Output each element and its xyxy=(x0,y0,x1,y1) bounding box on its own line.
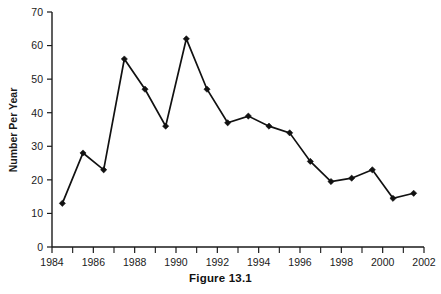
x-tick-label: 1990 xyxy=(164,256,188,268)
line-chart: Number Per Year 010203040506070 19841986… xyxy=(0,0,441,294)
x-tick-label: 1992 xyxy=(206,256,230,268)
y-axis-ticks: 010203040506070 xyxy=(31,6,52,253)
x-tick-label: 2000 xyxy=(371,256,395,268)
y-tick-label: 70 xyxy=(31,6,43,18)
x-tick-label: 1986 xyxy=(82,256,106,268)
x-tick-label: 1998 xyxy=(330,256,354,268)
y-tick-label: 60 xyxy=(31,39,43,51)
x-tick-label: 1994 xyxy=(247,256,271,268)
x-tick-label: 1988 xyxy=(123,256,147,268)
data-point xyxy=(59,200,65,206)
x-tick-label: 1984 xyxy=(40,256,64,268)
figure-caption: Figure 13.1 xyxy=(0,272,441,284)
figure-container: Number Per Year 010203040506070 19841986… xyxy=(0,0,441,294)
x-tick-label: 1996 xyxy=(288,256,312,268)
y-tick-label: 20 xyxy=(31,174,43,186)
data-series-line xyxy=(62,39,413,204)
data-point xyxy=(411,190,417,196)
data-point xyxy=(349,175,355,181)
y-tick-label: 50 xyxy=(31,73,43,85)
data-point xyxy=(266,123,272,129)
data-point xyxy=(245,113,251,119)
data-point xyxy=(183,36,189,42)
x-tick-label: 2002 xyxy=(412,256,436,268)
y-tick-label: 0 xyxy=(37,241,43,253)
y-tick-label: 40 xyxy=(31,107,43,119)
y-axis-title-group: Number Per Year xyxy=(7,88,19,172)
y-tick-label: 10 xyxy=(31,207,43,219)
x-axis-ticks: 1984198619881990199219941996199820002002 xyxy=(40,247,436,268)
y-tick-label: 30 xyxy=(31,140,43,152)
y-axis-title: Number Per Year xyxy=(7,88,19,172)
